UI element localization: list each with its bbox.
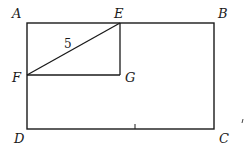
label-EF-length: 5 (64, 37, 72, 51)
segment-EF (27, 23, 120, 75)
label-A: A (11, 6, 21, 21)
stray-mark (242, 119, 243, 123)
label-F: F (11, 70, 22, 85)
label-B: B (217, 6, 228, 21)
geometry-diagram: A B C D E F G 5 (0, 0, 250, 148)
label-E: E (113, 6, 124, 21)
label-C: C (219, 131, 229, 146)
label-G: G (125, 70, 135, 85)
label-D: D (13, 131, 25, 146)
